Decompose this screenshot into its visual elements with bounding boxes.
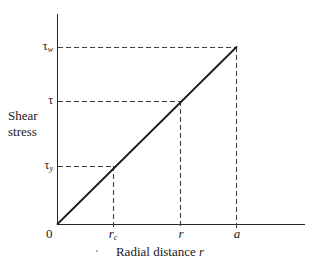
y-tick-label-tau-y: τy bbox=[45, 159, 53, 174]
x-tick-label-r-c: rc bbox=[109, 227, 118, 243]
x-tick-label-origin: 0 bbox=[46, 227, 53, 241]
y-tick-label-tau-w: τw bbox=[43, 40, 53, 55]
y-tick-label-tau: τ bbox=[48, 94, 53, 109]
x-tick-label-a: a bbox=[234, 227, 241, 243]
x-tick-label-r: r bbox=[178, 227, 183, 243]
x-axis-title-text: Radial distance bbox=[116, 244, 196, 259]
x-axis-title-symbol: r bbox=[199, 244, 204, 259]
y-axis-title-line-2: stress bbox=[8, 124, 38, 140]
shear-stress-line bbox=[58, 47, 237, 224]
scan-speck bbox=[96, 250, 98, 252]
shear-stress-figure: τw τ τy 0 rc r a Shear stress Radial dis… bbox=[0, 0, 317, 264]
y-axis-title-line-1: Shear bbox=[8, 108, 38, 124]
y-axis-title: Shear stress bbox=[8, 108, 38, 141]
x-axis-title: Radial distance r bbox=[116, 245, 204, 259]
